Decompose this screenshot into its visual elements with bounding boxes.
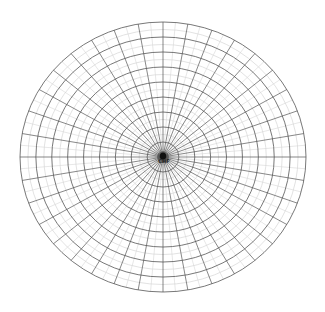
polar-grid-diagram <box>0 0 325 312</box>
center-label: CHF <box>157 158 171 164</box>
